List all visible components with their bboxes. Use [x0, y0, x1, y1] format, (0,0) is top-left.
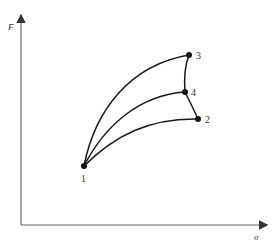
state-diagram: F̄ σ 1 2 3 4 [0, 0, 280, 245]
x-axis-label: σ [254, 232, 259, 242]
point-label-4: 4 [191, 87, 196, 98]
point-1 [81, 163, 87, 169]
curve-1-4 [84, 92, 185, 166]
curve-1-3 [84, 55, 189, 166]
curve-3-4 [184, 55, 189, 92]
y-axis-label: F̄ [7, 22, 14, 32]
point-label-3: 3 [196, 50, 201, 61]
point-3 [186, 52, 192, 58]
point-2 [195, 116, 201, 122]
point-label-1: 1 [81, 173, 86, 184]
point-label-2: 2 [205, 114, 210, 125]
point-4 [182, 89, 188, 95]
curve-1-2 [84, 119, 198, 166]
